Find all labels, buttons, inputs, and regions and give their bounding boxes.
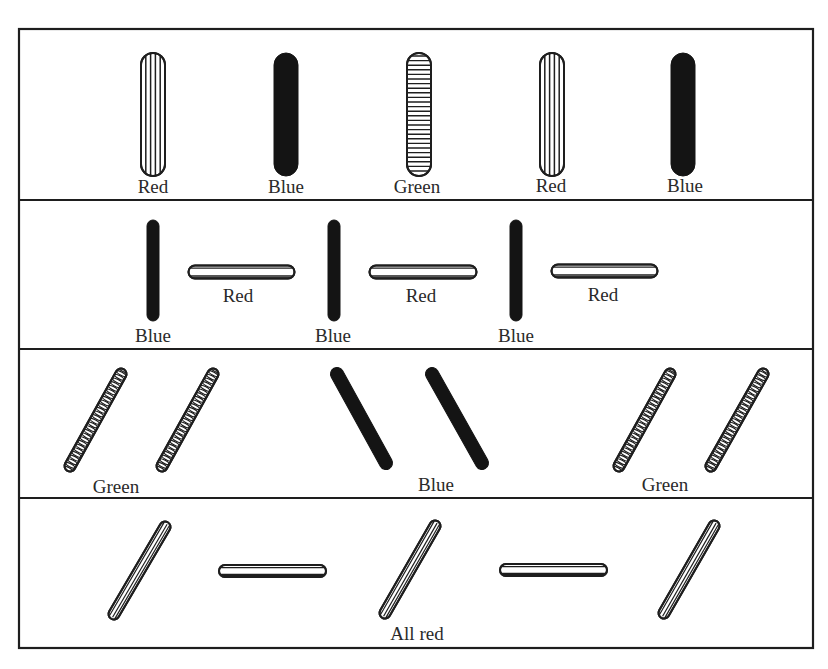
- rod-red: [500, 564, 607, 576]
- figure-canvas: [0, 0, 828, 669]
- row-1-label: Blue: [268, 177, 304, 196]
- rod-red: [377, 518, 442, 620]
- rod-green: [612, 366, 678, 474]
- rod-red: [106, 519, 172, 621]
- row-2-label: Blue: [315, 326, 351, 345]
- row-1-label: Blue: [667, 176, 703, 195]
- row-3: [63, 365, 771, 473]
- rod-red: [656, 518, 721, 620]
- row-2-label: Blue: [135, 326, 171, 345]
- rod-blue: [328, 365, 395, 472]
- rod-red: [370, 266, 477, 279]
- rod-blue: [274, 53, 298, 176]
- row-4: [106, 518, 721, 621]
- row-2-label: Red: [406, 286, 437, 305]
- rod-blue: [510, 220, 522, 321]
- rod-green: [155, 366, 221, 474]
- row-1-label: Red: [536, 176, 567, 195]
- row-4-label: All red: [390, 624, 443, 643]
- rod-red: [219, 565, 326, 577]
- row-1: [141, 53, 695, 176]
- rod-red: [141, 53, 165, 176]
- row-3-label: Green: [642, 475, 688, 494]
- row-3-label: Blue: [418, 475, 454, 494]
- row-3-label: Green: [93, 477, 139, 496]
- row-1-label: Red: [138, 177, 169, 196]
- rod-green: [63, 366, 129, 474]
- rod-arrangement-figure: RedBlueGreenRedBlueRedBlueRedBlueRedBlue…: [0, 0, 828, 669]
- rod-green: [407, 53, 431, 176]
- rod-blue: [423, 365, 491, 472]
- rod-red: [552, 265, 658, 278]
- rod-red: [540, 53, 564, 176]
- rod-red: [189, 266, 295, 279]
- row-2-label: Blue: [498, 326, 534, 345]
- rod-green: [704, 366, 771, 473]
- rod-blue: [328, 220, 340, 321]
- rod-blue: [671, 53, 695, 176]
- row-2-label: Red: [223, 286, 254, 305]
- rod-blue: [147, 220, 159, 321]
- row-2-label: Red: [588, 285, 619, 304]
- row-1-label: Green: [394, 177, 440, 196]
